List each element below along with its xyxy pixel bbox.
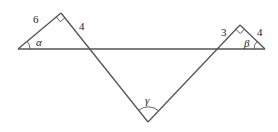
geometry-diagram: 6 4 α 3 4 β γ bbox=[0, 0, 278, 132]
beta-arc bbox=[254, 41, 257, 49]
right-diagonal-line bbox=[148, 25, 240, 122]
left-diagonal-line bbox=[61, 13, 148, 122]
label-side-3: 3 bbox=[221, 26, 227, 38]
left-right-angle-mark bbox=[56, 17, 65, 22]
label-gamma: γ bbox=[145, 94, 150, 106]
label-beta: β bbox=[243, 37, 250, 49]
gamma-arc bbox=[139, 107, 159, 111]
label-side-4-right: 4 bbox=[257, 26, 263, 38]
right-right-angle-mark bbox=[236, 29, 244, 33]
alpha-arc bbox=[27, 41, 30, 49]
label-side-4-left: 4 bbox=[79, 20, 85, 32]
label-alpha: α bbox=[36, 36, 42, 48]
label-side-6: 6 bbox=[33, 13, 39, 25]
